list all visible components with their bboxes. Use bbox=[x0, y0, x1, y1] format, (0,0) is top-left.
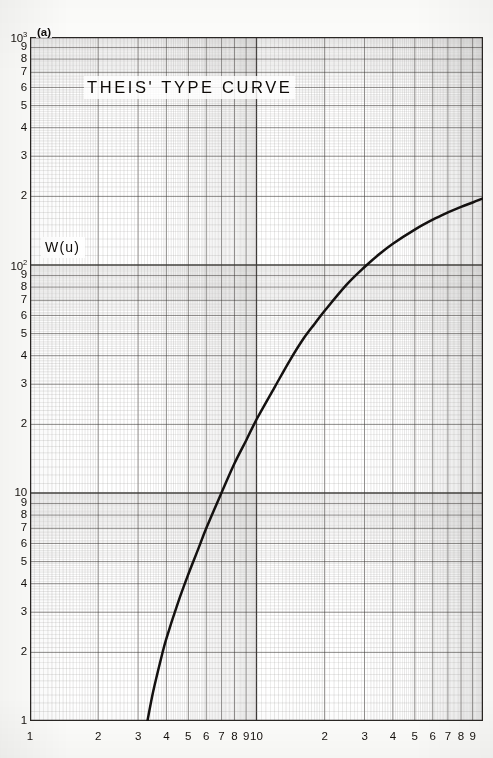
x-axis-tick-labels: 1234567891023456789 bbox=[0, 0, 493, 758]
x-tick-label: 5 bbox=[406, 731, 424, 743]
x-tick-label: 9 bbox=[464, 731, 482, 743]
x-tick-label: 2 bbox=[316, 731, 334, 743]
graph-paper-sheet: 103987654321029876543210987654321 123456… bbox=[0, 0, 493, 758]
y-axis-label: W(u) bbox=[41, 237, 85, 258]
x-tick-label: 4 bbox=[157, 731, 175, 743]
x-tick-label: 10 bbox=[248, 731, 266, 743]
panel-label: (a) bbox=[36, 26, 52, 38]
chart-title: THEIS' TYPE CURVE bbox=[84, 76, 295, 99]
x-tick-label: 5 bbox=[179, 731, 197, 743]
x-tick-label: 3 bbox=[129, 731, 147, 743]
x-tick-label: 3 bbox=[356, 731, 374, 743]
x-tick-label: 4 bbox=[384, 731, 402, 743]
x-tick-label: 2 bbox=[89, 731, 107, 743]
x-tick-label: 1 bbox=[21, 731, 39, 743]
